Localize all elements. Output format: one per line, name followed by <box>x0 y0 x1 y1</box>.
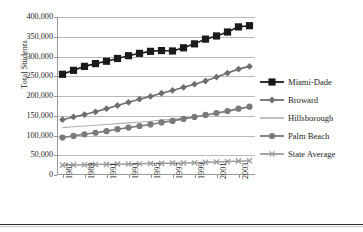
legend-marker-diamond-icon <box>259 93 285 107</box>
x-tick-label: 1995 <box>154 163 162 179</box>
x-tick-label: 2003 <box>242 163 250 179</box>
x-tick-label: 1991 <box>110 163 118 179</box>
x-tick-label: 1993 <box>132 163 140 179</box>
legend-item[interactable]: Palm Beach <box>259 127 363 145</box>
x-tick-label: 2001 <box>220 163 228 179</box>
chart-figure: Total Students 050,000100,000150,000200,… <box>0 0 363 232</box>
x-tick-label: 1987 <box>66 163 74 179</box>
legend-label: Palm Beach <box>285 132 329 141</box>
legend-marker-circle-icon <box>259 129 285 143</box>
legend-item[interactable]: Hillsborough <box>259 109 363 127</box>
legend-item[interactable]: Miami-Dade <box>259 73 363 91</box>
legend-item[interactable]: State Average <box>259 145 363 163</box>
chart-legend: Miami-DadeBrowardHillsboroughPalm BeachS… <box>259 73 363 163</box>
legend-label: Broward <box>285 96 318 105</box>
data-point-marker <box>268 78 275 85</box>
legend-item[interactable]: Broward <box>259 91 363 109</box>
legend-label: Miami-Dade <box>285 78 332 87</box>
x-tick-label: 1997 <box>176 163 184 179</box>
footer-rule-secondary <box>0 226 363 227</box>
legend-marker-x-icon <box>259 147 285 161</box>
legend-marker-line-icon <box>259 111 285 125</box>
data-point-marker <box>269 97 276 104</box>
legend-label: State Average <box>285 150 335 159</box>
legend-marker-square-icon <box>259 75 285 89</box>
legend-label: Hillsborough <box>285 114 333 123</box>
x-tick-label: 1989 <box>88 163 96 179</box>
x-tick-label: 1999 <box>198 163 206 179</box>
footer-rule <box>0 224 363 225</box>
data-point-marker <box>269 133 275 139</box>
